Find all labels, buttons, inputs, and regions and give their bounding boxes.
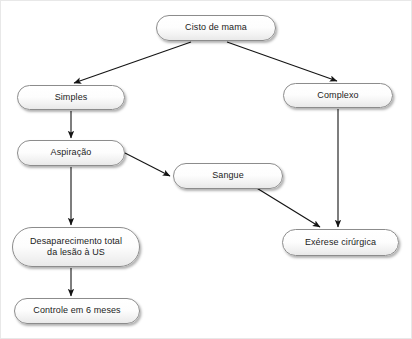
node-cisto-de-mama[interactable]: Cisto de mama [156, 15, 276, 41]
node-label: Exérese cirúrgica [305, 237, 376, 249]
node-sangue[interactable]: Sangue [173, 163, 283, 189]
node-label: Sangue [212, 170, 244, 182]
node-label: Desaparecimento total da lesão à US [30, 236, 122, 259]
node-simples[interactable]: Simples [17, 85, 125, 110]
node-label: Simples [55, 92, 88, 104]
edge-root-to-complexo [227, 42, 337, 81]
edge-root-to-simples [74, 42, 191, 83]
node-controle-em-6-meses[interactable]: Controle em 6 meses [14, 298, 140, 324]
node-label: Aspiração [51, 147, 92, 159]
node-desaparecimento-total-da-lesao-a-us[interactable]: Desaparecimento total da lesão à US [12, 227, 140, 267]
node-complexo[interactable]: Complexo [283, 83, 393, 108]
node-aspiracao[interactable]: Aspiração [17, 140, 125, 166]
edge-sangue-to-exerese [255, 187, 320, 227]
edge-aspiracao-to-sangue [125, 153, 170, 176]
node-exerese-cirurgica[interactable]: Exérese cirúrgica [282, 229, 399, 256]
flowchart-canvas: Cisto de mama Simples Complexo Aspiração… [0, 0, 412, 339]
node-label: Controle em 6 meses [33, 305, 120, 317]
node-label: Cisto de mama [185, 22, 247, 34]
node-label: Complexo [317, 90, 358, 102]
